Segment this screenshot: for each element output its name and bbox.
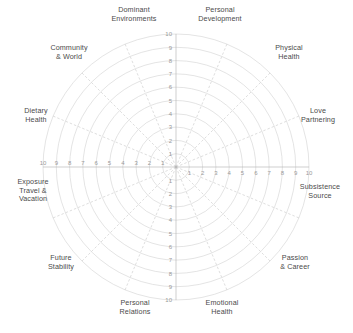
svg-text:2: 2 [148, 160, 152, 166]
svg-text:4: 4 [169, 217, 173, 223]
svg-text:9: 9 [55, 160, 59, 166]
svg-text:5: 5 [169, 231, 173, 237]
svg-text:1: 1 [169, 151, 173, 157]
radar-chart: 1098765432112345678910109876543211234567… [0, 0, 353, 333]
svg-text:2: 2 [169, 191, 173, 197]
svg-text:6: 6 [95, 160, 99, 166]
svg-text:5: 5 [241, 170, 245, 176]
svg-text:10: 10 [165, 297, 172, 303]
svg-text:10: 10 [40, 160, 47, 166]
svg-text:7: 7 [267, 170, 271, 176]
svg-text:2: 2 [201, 170, 205, 176]
svg-text:6: 6 [169, 244, 173, 250]
svg-text:10: 10 [306, 170, 313, 176]
svg-text:3: 3 [214, 170, 218, 176]
svg-text:6: 6 [254, 170, 258, 176]
svg-text:9: 9 [169, 284, 173, 290]
svg-text:1: 1 [169, 178, 173, 184]
svg-text:7: 7 [81, 160, 85, 166]
svg-text:1: 1 [188, 170, 192, 176]
svg-text:10: 10 [165, 31, 172, 37]
svg-text:9: 9 [294, 170, 298, 176]
svg-text:8: 8 [281, 170, 285, 176]
radar-chart-canvas: 1098765432112345678910109876543211234567… [0, 0, 353, 333]
svg-text:5: 5 [108, 160, 112, 166]
svg-text:8: 8 [169, 271, 173, 277]
svg-text:7: 7 [169, 257, 173, 263]
svg-text:4: 4 [121, 160, 125, 166]
svg-text:3: 3 [169, 204, 173, 210]
svg-text:8: 8 [68, 160, 72, 166]
svg-text:3: 3 [134, 160, 138, 166]
svg-text:4: 4 [228, 170, 232, 176]
